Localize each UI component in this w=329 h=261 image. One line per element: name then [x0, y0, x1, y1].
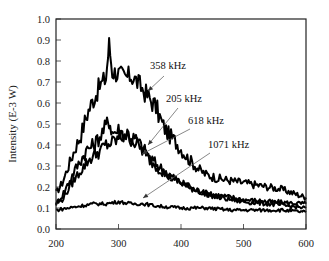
- x-tick-label: 200: [48, 238, 64, 249]
- series-label: 205 kHz: [166, 93, 202, 104]
- x-tick-label: 300: [111, 238, 127, 249]
- series-label: 618 kHz: [188, 115, 224, 126]
- plot-frame: [56, 19, 306, 229]
- intensity-chart: Intensity (E-3 W) 0.00.10.20.30.40.50.60…: [0, 0, 329, 261]
- y-tick-label: 0.0: [37, 224, 50, 235]
- y-tick-label: 0.9: [37, 35, 50, 46]
- y-tick-label: 0.7: [37, 77, 50, 88]
- x-tick-label: 400: [173, 238, 189, 249]
- annotation-arrow: [148, 108, 178, 145]
- y-tick-label: 0.4: [37, 140, 51, 151]
- y-axis-label: Intensity (E-3 W): [6, 85, 19, 163]
- x-axis-ticks: 200300400500600: [48, 224, 314, 249]
- y-tick-label: 0.5: [37, 119, 50, 130]
- series-label: 1071 kHz: [208, 139, 249, 150]
- y-tick-label: 0.8: [37, 56, 50, 67]
- y-tick-label: 0.2: [37, 182, 50, 193]
- y-axis-title: Intensity (E-3 W): [6, 85, 19, 163]
- y-tick-label: 1.0: [37, 14, 50, 25]
- x-tick-label: 500: [236, 238, 252, 249]
- series-line-205-khz: [56, 118, 306, 206]
- y-tick-label: 0.3: [37, 161, 50, 172]
- series-label: 358 kHz: [150, 60, 186, 71]
- arrowhead-icon: [143, 193, 148, 198]
- y-tick-label: 0.6: [37, 98, 50, 109]
- series-annotations: 358 kHz205 kHz618 kHz1071 kHz: [142, 60, 249, 198]
- arrowhead-icon: [148, 140, 153, 145]
- y-tick-label: 0.1: [37, 203, 50, 214]
- x-tick-label: 600: [298, 238, 314, 249]
